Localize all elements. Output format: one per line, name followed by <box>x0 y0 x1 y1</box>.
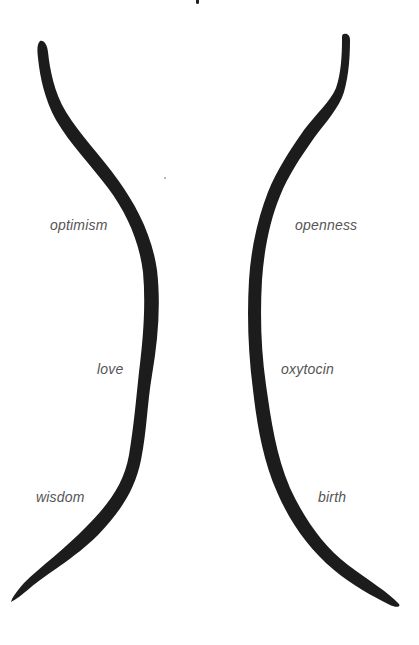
label-oxytocin: oxytocin <box>281 361 334 377</box>
label-love: love <box>97 361 123 377</box>
label-wisdom: wisdom <box>36 489 85 505</box>
label-birth: birth <box>318 489 346 505</box>
right-curve <box>248 34 399 607</box>
curves-svg <box>0 0 419 645</box>
label-openness: openness <box>295 217 357 233</box>
label-optimism: optimism <box>50 217 108 233</box>
cropped-title-mark <box>196 0 199 4</box>
hourglass-diagram: optimism love wisdom openness oxytocin b… <box>0 0 419 645</box>
left-curve <box>11 41 159 602</box>
paper-speck <box>164 177 166 179</box>
